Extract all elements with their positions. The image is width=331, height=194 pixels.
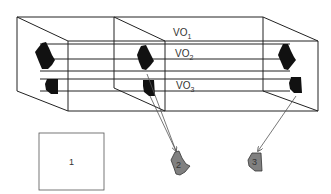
output-label-2: 2 (176, 160, 181, 170)
vo3-object-frame2 (143, 80, 155, 96)
video-object-planes-diagram: VO1 VO2 VO3 1 2 3 (0, 0, 331, 194)
vo2-object-frame3 (278, 44, 296, 70)
arrow-vo3-to-3 (258, 96, 296, 151)
arrow-vo3-line (150, 96, 176, 151)
svg-text:VO1: VO1 (173, 27, 191, 40)
vo3-object-frame1 (45, 79, 58, 94)
frame-box (17, 17, 318, 111)
layer-label-vo1: VO (173, 27, 188, 38)
vo2-object-frame1 (35, 42, 55, 69)
vo3-object-frame3 (289, 77, 302, 93)
output-label-1: 1 (69, 157, 74, 167)
output-label-3: 3 (252, 157, 257, 167)
vo2-object-frame2 (137, 45, 154, 70)
layer-label-vo2: VO (175, 48, 190, 59)
layer-label-vo3: VO (176, 80, 191, 91)
arrow-vo2-to-2 (147, 74, 176, 151)
